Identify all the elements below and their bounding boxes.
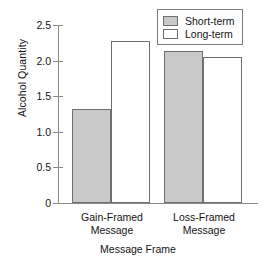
legend-label-short-term: Short-term [185,15,235,27]
y-tick-label: 0.5 [36,161,51,173]
bar-long-term-loss-framed[interactable] [203,57,242,203]
bar-short-term-loss-framed[interactable] [164,51,203,203]
x-axis-title: Message Frame [0,243,276,255]
y-tick-mark [53,167,63,168]
plot-area: 0 0.5 1.0 1.5 2.0 2.5 Gain-Framed Me [58,25,258,204]
y-tick-label: 2.5 [36,19,51,31]
y-tick-mark [53,61,63,62]
x-tick-label-loss-framed: Loss-Framed Message [149,211,259,236]
bar-chart-figure: Alcohol Quantity 0 0.5 1.0 1.5 2.0 2.5 [0,0,276,265]
y-axis-title: Alcohol Quantity [16,18,28,138]
y-tick-mark [53,132,63,133]
y-tick-mark [53,203,63,204]
legend-swatch-icon-long-term [163,29,178,39]
bar-long-term-gain-framed[interactable] [111,41,150,203]
x-tick-label-line2: Message [149,224,259,237]
legend-swatch-icon-short-term [163,16,178,26]
legend-label-long-term: Long-term [185,28,233,40]
y-tick-label: 1.0 [36,126,51,138]
x-tick-label-line1: Loss-Framed [149,211,259,224]
bar-short-term-gain-framed[interactable] [72,109,111,203]
x-axis-line [58,203,258,204]
legend-item-short-term[interactable]: Short-term [163,14,235,27]
chart-legend: Short-term Long-term [157,9,243,45]
y-tick-mark [53,25,63,26]
y-axis-line [58,25,59,204]
y-tick-label: 2.0 [36,55,51,67]
y-tick-label: 1.5 [36,90,51,102]
legend-item-long-term[interactable]: Long-term [163,27,235,40]
y-tick-label: 0 [45,197,51,209]
y-tick-mark [53,96,63,97]
